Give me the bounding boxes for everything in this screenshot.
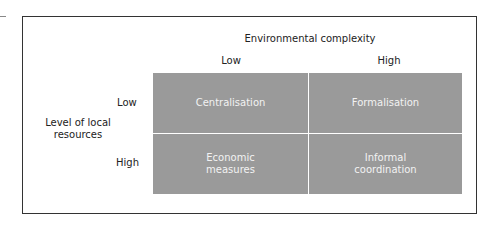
column-label-high: High <box>378 55 401 66</box>
matrix-grid: Centralisation Formalisation Economic me… <box>153 73 461 193</box>
cell-centralisation: Centralisation <box>153 73 308 133</box>
row-axis-title-line-1: Level of local <box>45 117 111 129</box>
row-label-high: High <box>116 157 139 168</box>
cell-text: Formalisation <box>352 97 419 109</box>
cell-text-line-1: Informal <box>354 152 416 164</box>
column-axis-title: Environmental complexity <box>245 33 376 44</box>
cell-text-line-2: coordination <box>354 164 416 176</box>
column-label-low: Low <box>221 55 241 66</box>
cell-informal-coordination: Informal coordination <box>309 134 462 194</box>
row-axis-title: Level of local resources <box>45 117 111 141</box>
row-axis-title-line-2: resources <box>45 129 111 141</box>
margin-dash <box>0 16 6 17</box>
cell-text-line-2: measures <box>206 164 255 176</box>
cell-economic-measures: Economic measures <box>153 134 308 194</box>
cell-text: Centralisation <box>196 97 266 109</box>
cell-formalisation: Formalisation <box>309 73 462 133</box>
row-label-low: Low <box>117 97 137 108</box>
cell-text-line-1: Economic <box>206 152 255 164</box>
